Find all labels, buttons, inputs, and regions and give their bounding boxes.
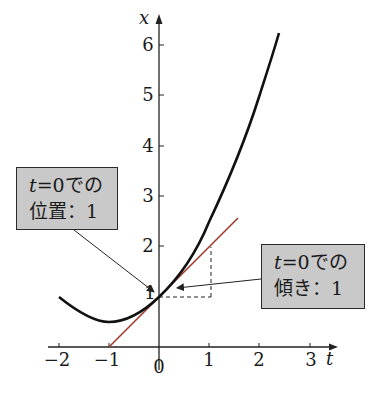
tick-t-1: 1 <box>203 349 214 370</box>
tick-t-neg1: −1 <box>94 349 121 370</box>
position-callout-line1: =0での <box>37 174 103 196</box>
position-callout-line2: 位置：1 <box>29 198 117 224</box>
slope-leader <box>177 279 261 288</box>
position-callout-t: t <box>29 174 37 196</box>
tick-x-3: 3 <box>142 185 153 206</box>
tick-t-3: 3 <box>305 349 316 370</box>
tick-x-2: 2 <box>142 235 153 256</box>
x-axis-label: x <box>139 7 149 28</box>
tick-x-5: 5 <box>142 84 153 105</box>
position-callout: t=0での 位置：1 <box>16 167 118 230</box>
slope-callout-line1: =0での <box>282 251 348 273</box>
tick-x-4: 4 <box>142 135 153 156</box>
t-axis-label: t <box>326 348 334 369</box>
tick-t-neg2: −2 <box>44 349 71 370</box>
slope-callout-line2: 傾き：1 <box>274 275 364 301</box>
x-axis-arrow-icon <box>156 14 163 24</box>
tick-origin: 0 <box>153 356 164 377</box>
x-ticks <box>159 45 164 246</box>
tick-x-6: 6 <box>142 34 153 55</box>
slope-callout-t: t <box>274 251 282 273</box>
tick-t-2: 2 <box>253 349 264 370</box>
slope-callout: t=0での 傾き：1 <box>261 244 365 309</box>
